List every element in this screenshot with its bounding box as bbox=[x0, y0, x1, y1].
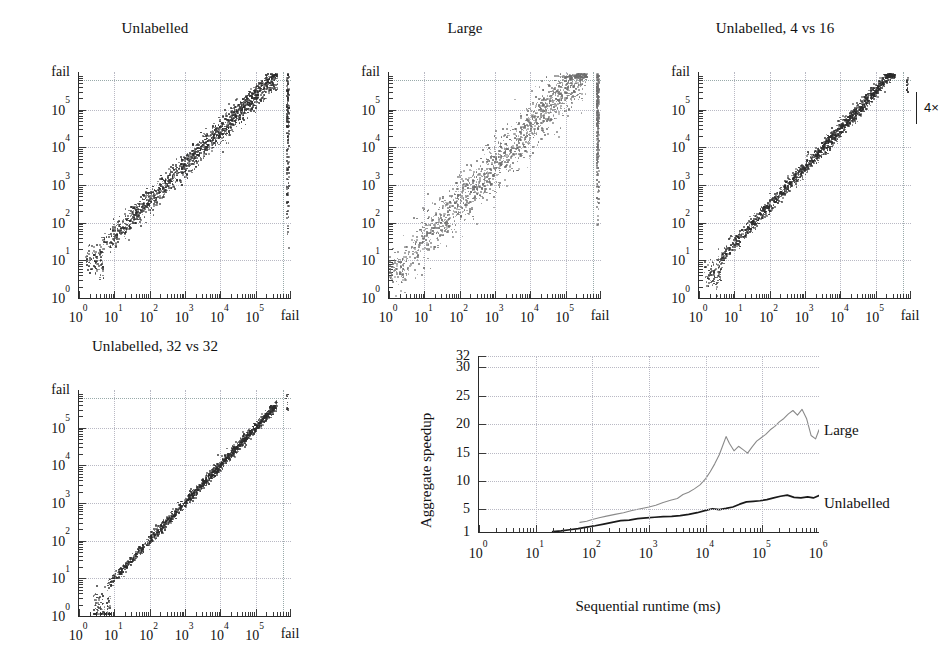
y-axis-tick bbox=[479, 367, 486, 368]
x-axis-tick-label: 106 bbox=[809, 544, 828, 562]
x-axis-minor-tick bbox=[389, 291, 390, 298]
scatter-point bbox=[560, 127, 562, 129]
scatter-point bbox=[557, 103, 559, 105]
scatter-point bbox=[198, 160, 200, 162]
y-axis-minor-tick bbox=[699, 238, 703, 239]
scatter-point bbox=[535, 107, 537, 109]
scatter-point bbox=[564, 91, 566, 93]
scatter-plot-area bbox=[78, 390, 291, 617]
scatter-point bbox=[710, 274, 712, 276]
y-axis-minor-tick bbox=[79, 193, 83, 194]
x-axis-minor-tick bbox=[754, 528, 755, 532]
y-axis-minor-tick bbox=[79, 153, 83, 154]
scatter-point bbox=[485, 188, 487, 190]
x-axis-tick-label: 102 bbox=[582, 544, 601, 562]
scatter-point bbox=[715, 268, 717, 270]
fail-column-point bbox=[287, 91, 289, 93]
scatter-point bbox=[555, 94, 557, 96]
scatter-point bbox=[476, 223, 478, 225]
scatter-point bbox=[155, 199, 157, 201]
scatter-point bbox=[104, 233, 106, 235]
scatter-point bbox=[148, 204, 150, 206]
y-axis-minor-tick bbox=[79, 580, 83, 581]
scatter-point bbox=[771, 207, 773, 209]
y-axis-tick-label: 101 bbox=[20, 252, 70, 270]
panel-aggregate-speedup: Aggregate speedup Large Unlabelled Seque… bbox=[400, 340, 945, 661]
fail-column-point bbox=[598, 170, 600, 172]
scatter-point bbox=[831, 127, 833, 129]
scatter-point bbox=[527, 128, 529, 130]
scatter-point bbox=[108, 587, 110, 589]
x-axis-minor-tick bbox=[202, 612, 203, 616]
scatter-point bbox=[145, 222, 147, 224]
scatter-point bbox=[852, 103, 854, 105]
scatter-point bbox=[159, 183, 161, 185]
x-axis-minor-tick bbox=[210, 612, 211, 616]
scatter-point bbox=[484, 173, 486, 175]
scatter-point bbox=[877, 96, 879, 98]
scatter-point bbox=[823, 153, 825, 155]
scatter-point bbox=[710, 268, 712, 270]
y-axis-minor-tick bbox=[79, 465, 86, 466]
x-axis-tick-label: 105 bbox=[752, 544, 771, 562]
scatter-point bbox=[100, 257, 102, 259]
scatter-point bbox=[527, 110, 529, 112]
scatter-point bbox=[172, 176, 174, 178]
scatter-point bbox=[167, 180, 169, 182]
scatter-point bbox=[817, 160, 819, 162]
scatter-point bbox=[213, 134, 215, 136]
scatter-point bbox=[442, 198, 444, 200]
scatter-point bbox=[872, 97, 874, 99]
scatter-point bbox=[213, 123, 215, 125]
scatter-point bbox=[539, 118, 541, 120]
scatter-point bbox=[266, 85, 268, 87]
scatter-point bbox=[509, 139, 511, 141]
scatter-point bbox=[228, 113, 230, 115]
y-axis-minor-tick bbox=[79, 223, 86, 224]
x-axis-minor-tick bbox=[706, 525, 707, 532]
scatter-point bbox=[274, 407, 276, 409]
scatter-point bbox=[413, 217, 415, 219]
scatter-point bbox=[713, 264, 715, 266]
y-axis-minor-tick bbox=[699, 129, 703, 130]
scatter-point bbox=[173, 185, 175, 187]
x-axis-minor-tick bbox=[734, 291, 735, 298]
x-axis-minor-tick bbox=[590, 294, 591, 298]
x-axis-minor-tick bbox=[733, 528, 734, 532]
scatter-point bbox=[251, 103, 253, 105]
scatter-point bbox=[391, 278, 393, 280]
scatter-point bbox=[242, 118, 244, 120]
y-axis-minor-tick bbox=[389, 76, 393, 77]
y-axis-fail-label: fail bbox=[20, 64, 70, 80]
x-axis-minor-tick bbox=[114, 609, 115, 616]
x-axis-tick-label: 103 bbox=[175, 626, 194, 644]
scatter-point bbox=[165, 192, 167, 194]
scatter-point bbox=[204, 148, 206, 150]
scatter-point bbox=[172, 164, 174, 166]
y-axis-minor-tick bbox=[699, 264, 703, 265]
scatter-point bbox=[86, 264, 88, 266]
x-axis-minor-tick bbox=[729, 294, 730, 298]
scatter-point bbox=[479, 175, 481, 177]
panel-unlabelled-4-vs-16: Unlabelled, 4 vs 16 4× 10010110210310410… bbox=[620, 20, 930, 330]
scatter-point bbox=[241, 128, 243, 130]
scatter-point bbox=[153, 214, 155, 216]
fail-column-point bbox=[287, 179, 289, 181]
scatter-point bbox=[462, 211, 464, 213]
scatter-point bbox=[203, 157, 205, 159]
x-axis-minor-tick bbox=[177, 294, 178, 298]
scatter-point bbox=[509, 165, 511, 167]
scatter-point bbox=[575, 81, 577, 83]
fail-column-point bbox=[286, 188, 288, 190]
scatter-point bbox=[255, 107, 257, 109]
scatter-point bbox=[529, 131, 531, 133]
scatter-point bbox=[756, 225, 758, 227]
scatter-point bbox=[264, 98, 266, 100]
scatter-point bbox=[877, 92, 879, 94]
scatter-point bbox=[522, 142, 524, 144]
y-axis-minor-tick bbox=[79, 280, 83, 281]
fail-separator-horizontal bbox=[79, 398, 291, 399]
scatter-point bbox=[449, 205, 451, 207]
scatter-point bbox=[571, 106, 573, 108]
scatter-point bbox=[568, 75, 570, 77]
